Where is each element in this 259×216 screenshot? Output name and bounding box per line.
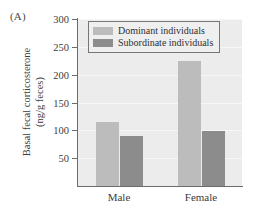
legend-swatch-dominant-icon [93,27,113,35]
x-axis-label-male: Male [108,191,131,203]
y-axis-tick [72,47,78,48]
legend-item-dominant: Dominant individuals [93,25,213,36]
gridline [78,75,242,76]
y-axis-tick-label: 50 [29,153,69,164]
y-axis-tick-label: 200 [29,69,69,80]
gridline [78,103,242,104]
y-axis-tick-label: 250 [29,41,69,52]
y-axis-tick [72,75,78,76]
y-axis-tick [72,103,78,104]
bar-female-dominant [178,61,201,186]
y-axis-tick-label: 100 [29,125,69,136]
x-axis-line [77,186,243,187]
bar-female-subordinate [202,131,225,186]
legend: Dominant individuals Subordinate individ… [88,21,220,53]
legend-label-dominant: Dominant individuals [118,26,205,36]
y-axis-tick [72,158,78,159]
legend-item-subordinate: Subordinate individuals [93,37,213,48]
legend-swatch-subordinate-icon [93,39,113,47]
bar-male-subordinate [120,136,143,186]
y-axis-tick-label: 300 [29,14,69,25]
legend-label-subordinate: Subordinate individuals [118,38,213,48]
figure-panel-a: (A) Basal fecal corticosterone (ng/g fec… [0,0,259,216]
y-axis-tick [72,19,78,20]
y-axis-tick-label: 150 [29,97,69,108]
bar-male-dominant [96,122,119,186]
gridline [78,19,242,20]
x-axis-label-female: Female [185,191,217,203]
y-axis-tick [72,130,78,131]
